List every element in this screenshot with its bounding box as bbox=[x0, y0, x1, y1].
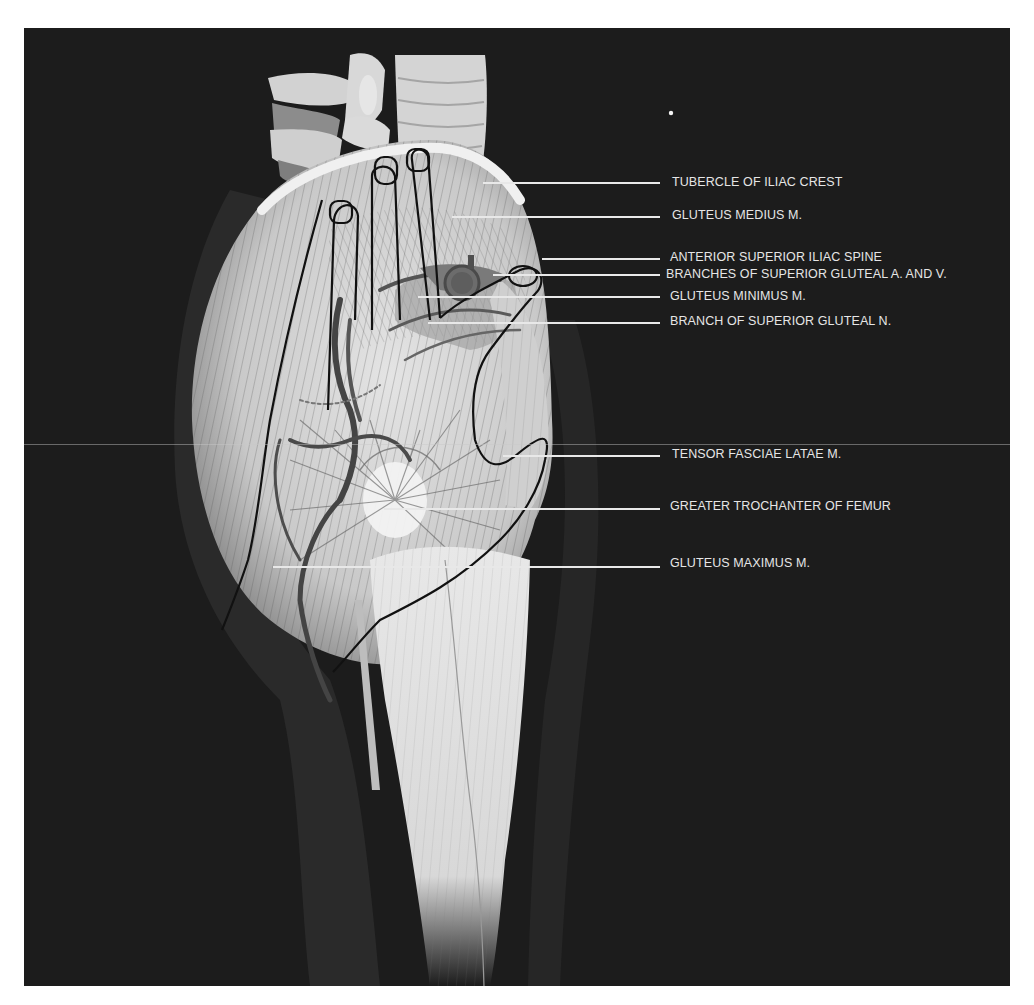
thigh bbox=[355, 547, 530, 986]
label-greater-trochanter: GREATER TROCHANTER OF FEMUR bbox=[670, 499, 891, 513]
marker-dot bbox=[669, 111, 673, 115]
label-gluteus-minimus: GLUTEUS MINIMUS M. bbox=[670, 289, 806, 303]
scan-artifact-line bbox=[24, 444, 1010, 445]
label-tubercle-of-iliac-crest: TUBERCLE OF ILIAC CREST bbox=[672, 175, 842, 189]
label-gluteus-medius: GLUTEUS MEDIUS M. bbox=[672, 208, 802, 222]
label-anterior-superior-iliac-spine: ANTERIOR SUPERIOR ILIAC SPINE bbox=[670, 250, 882, 264]
label-branch-superior-gluteal-n: BRANCH OF SUPERIOR GLUTEAL N. bbox=[670, 314, 891, 328]
label-gluteus-maximus: GLUTEUS MAXIMUS M. bbox=[670, 556, 810, 570]
label-tensor-fasciae-latae: TENSOR FASCIAE LATAE M. bbox=[672, 447, 841, 461]
label-branches-superior-gluteal-av: BRANCHES OF SUPERIOR GLUTEAL A. AND V. bbox=[666, 267, 947, 281]
